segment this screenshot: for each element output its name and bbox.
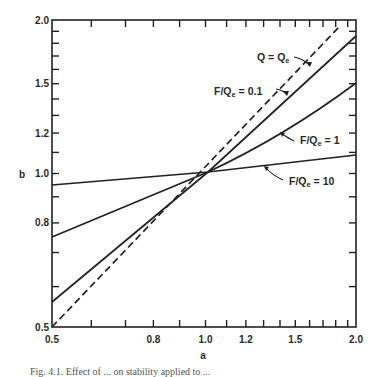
series-f-qe-0-1 (52, 36, 356, 302)
x-tick-label: 0.8 (146, 334, 160, 345)
annotation-q-equals-qe: Q = Qe (257, 51, 289, 65)
y-tick-label: 2.0 (35, 15, 49, 26)
x-axis-label: a (200, 350, 206, 361)
y-tick-label: 1.2 (35, 128, 49, 139)
leader-f-qe-10 (265, 167, 283, 180)
annotation-f-qe-10: F/Qe = 10 (289, 175, 334, 189)
x-tick-label: 1.2 (239, 334, 253, 345)
x-axis-ticks-top (91, 20, 347, 27)
annotation-f-qe-1: F/Qe = 1 (300, 134, 340, 148)
y-axis-label: b (19, 169, 25, 180)
y-tick-label: 1.0 (35, 168, 49, 179)
y-axis-ticks-left (52, 31, 59, 286)
y-tick-label: 0.5 (35, 322, 49, 333)
figure-caption: Fig. 4.1. Effect of ... on stability app… (30, 366, 210, 377)
x-tick-label: 1.5 (288, 334, 302, 345)
annotation-arrowheads (264, 62, 312, 171)
y-axis-ticks-right (349, 31, 356, 286)
y-tick-label: 1.5 (35, 78, 49, 89)
x-tick-labels: 0.5 0.8 1.0 1.2 1.5 2.0 (45, 334, 363, 345)
x-tick-label: 0.5 (45, 334, 59, 345)
y-tick-labels: 0.5 0.8 1.0 1.2 1.5 2.0 (35, 15, 49, 333)
x-axis-ticks-bottom (91, 320, 347, 327)
x-tick-label: 1.0 (199, 334, 213, 345)
y-tick-label: 0.8 (35, 217, 49, 228)
x-tick-label: 2.0 (349, 334, 363, 345)
annotation-f-qe-0-1: F/Qe = 0.1 (214, 85, 262, 99)
leader-q-equals-qe (294, 57, 310, 66)
